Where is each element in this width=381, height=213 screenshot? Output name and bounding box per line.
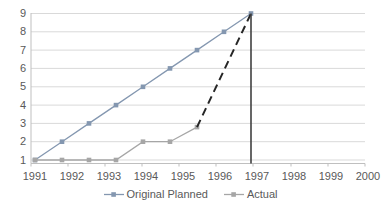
legend-label-original-planned: Original Planned bbox=[127, 189, 208, 200]
series-actual bbox=[33, 125, 200, 163]
x-tick-label-1992: 1992 bbox=[52, 171, 92, 182]
line-chart: 9 8 7 6 5 4 3 2 1 1991 1992 1993 1994 19… bbox=[0, 0, 381, 213]
chart-legend: Original Planned Actual bbox=[0, 189, 381, 200]
legend-item-actual[interactable]: Actual bbox=[224, 189, 278, 200]
x-tick-label-1995: 1995 bbox=[163, 171, 203, 182]
legend-label-actual: Actual bbox=[247, 189, 278, 200]
y-tick-label-7: 7 bbox=[8, 45, 26, 56]
y-tick-label-8: 8 bbox=[8, 26, 26, 37]
gridlines bbox=[31, 14, 365, 161]
legend-item-original-planned[interactable]: Original Planned bbox=[104, 189, 208, 200]
y-tick-label-3: 3 bbox=[8, 118, 26, 129]
y-tick-label-9: 9 bbox=[8, 8, 26, 19]
y-tick-label-5: 5 bbox=[8, 81, 26, 92]
x-tick-label-1996: 1996 bbox=[200, 171, 240, 182]
x-tick-label-1994: 1994 bbox=[126, 171, 166, 182]
x-tick-label-1999: 1999 bbox=[311, 171, 351, 182]
x-tick-label-1997: 1997 bbox=[237, 171, 277, 182]
axis-lines bbox=[31, 13, 365, 164]
x-tick-label-1991: 1991 bbox=[15, 171, 55, 182]
legend-line-marker-icon bbox=[104, 190, 124, 199]
y-tick-label-2: 2 bbox=[8, 136, 26, 147]
x-tick-label-2000: 2000 bbox=[348, 171, 381, 182]
x-tick-label-1993: 1993 bbox=[89, 171, 129, 182]
legend-line-marker-icon bbox=[224, 190, 244, 199]
y-tick-label-4: 4 bbox=[8, 100, 26, 111]
y-tick-label-1: 1 bbox=[8, 155, 26, 166]
series-markers bbox=[33, 125, 200, 163]
x-tick-label-1998: 1998 bbox=[274, 171, 314, 182]
y-tick-label-6: 6 bbox=[8, 63, 26, 74]
